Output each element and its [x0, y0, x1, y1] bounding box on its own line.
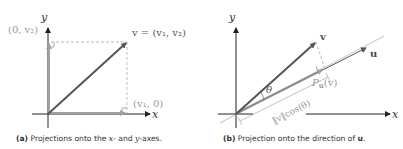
- label-theta: θ: [266, 84, 272, 95]
- label-length: ‖v‖cos(θ): [270, 98, 312, 127]
- caption-a: (a) Projections onto the x- and y-axes.: [16, 134, 162, 143]
- vector-v: [48, 43, 126, 114]
- caption-b-tag: (b): [223, 134, 235, 143]
- label-projection: Pu(v): [311, 77, 337, 90]
- label-projection-y: (0, v₂): [8, 24, 38, 35]
- y-axis-label: y: [40, 11, 48, 24]
- label-v-components: v = (v₁, v₂): [131, 27, 186, 38]
- x-axis-label: x: [152, 108, 159, 121]
- x-axis-label: x: [392, 108, 399, 121]
- label-v: v: [319, 31, 327, 42]
- label-projection-x: (v₁, 0): [133, 98, 163, 109]
- label-u: u: [370, 48, 377, 59]
- panel-b: y x v u θ Pu(v) ‖v‖cos(θ): [218, 11, 399, 128]
- angle-arc: [261, 92, 264, 100]
- dashed-perpendicular: [316, 42, 325, 69]
- projection-diagrams: y x v = (v₁, v₂) (0, v₂) (v₁, 0) y x v u…: [0, 0, 403, 149]
- caption-b: (b) Projection onto the direction of u.: [223, 134, 365, 143]
- y-axis-label: y: [228, 11, 236, 24]
- caption-a-tag: (a): [16, 134, 28, 143]
- panel-a: y x v = (v₁, v₂) (0, v₂) (v₁, 0): [8, 11, 186, 128]
